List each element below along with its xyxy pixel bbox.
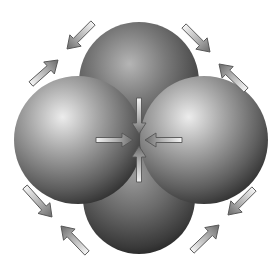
sphere-packing-diagram: [0, 0, 278, 278]
spheres: [14, 22, 268, 254]
arrow-bl-outward-icon: [55, 220, 93, 258]
arrow-br-outward-icon: [186, 219, 224, 257]
